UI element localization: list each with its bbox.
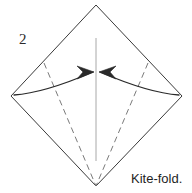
step-number-label: 2 xyxy=(19,31,27,47)
kite-fold-diagram: Origami kite-fold diagram 2 Kite-fold. xyxy=(0,0,192,193)
figure-caption: Kite-fold. xyxy=(131,171,182,186)
origami-figure: Origami kite-fold diagram 2 Kite-fold. xyxy=(0,0,192,193)
